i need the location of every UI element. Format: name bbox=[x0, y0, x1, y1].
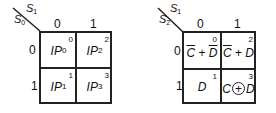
row-header-0: 0 bbox=[29, 44, 36, 56]
cell-3: 3 C+D bbox=[221, 70, 256, 104]
karnaugh-grid: 0 C + D 2 C + D 1 D 3 C+D bbox=[182, 31, 256, 104]
cell-expression: D bbox=[184, 70, 220, 104]
cell-0: 0 IP0 bbox=[41, 33, 76, 68]
cell-content: IP2 bbox=[77, 33, 112, 68]
cell-3: 3 IP3 bbox=[77, 69, 112, 104]
karnaugh-grid: 0 IP0 2 IP2 1 IP1 3 IP3 bbox=[39, 31, 112, 104]
cell-expression: C + D bbox=[221, 33, 256, 68]
row-variable-label: S0 bbox=[14, 14, 25, 28]
row-header-0: 0 bbox=[174, 45, 181, 57]
row-variable-label: S2 bbox=[159, 14, 170, 28]
column-header-1: 1 bbox=[90, 18, 97, 30]
cell-1: 1 IP1 bbox=[41, 69, 76, 104]
column-variable-label: S1 bbox=[170, 3, 181, 17]
cell-1: 1 D bbox=[184, 70, 220, 104]
cell-2: 2 C + D bbox=[221, 33, 256, 68]
row-header-1: 1 bbox=[31, 80, 38, 92]
column-variable-label: S1 bbox=[26, 3, 37, 17]
column-header-0: 0 bbox=[197, 18, 204, 30]
xor-operator-icon: + bbox=[232, 82, 245, 95]
column-header-0: 0 bbox=[54, 18, 61, 30]
column-header-1: 1 bbox=[234, 18, 241, 30]
cell-2: 2 IP2 bbox=[77, 33, 112, 68]
cell-expression: C + D bbox=[184, 33, 220, 68]
cell-content: IP1 bbox=[41, 69, 76, 104]
karnaugh-map-functions: S1 S2 0 1 0 1 0 C + D 2 C + D 1 D 3 C+D bbox=[138, 0, 276, 113]
cell-content: IP3 bbox=[77, 69, 112, 104]
cell-expression: C+D bbox=[221, 70, 256, 104]
cell-content: IP0 bbox=[41, 33, 76, 68]
karnaugh-map-inputs: S1 S0 0 1 0 1 0 IP0 2 IP2 1 IP1 3 IP3 bbox=[0, 0, 138, 113]
cell-0: 0 C + D bbox=[184, 33, 220, 68]
